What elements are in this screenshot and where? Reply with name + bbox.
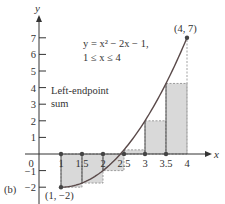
svg-text:2.5: 2.5 (117, 158, 130, 169)
svg-text:3: 3 (142, 158, 147, 169)
x-axis-arrow-icon (205, 151, 212, 157)
svg-text:3.5: 3.5 (159, 158, 172, 169)
function-label-line2: 1 ≤ x ≤ 4 (83, 52, 122, 63)
sum-label-line2: sum (51, 98, 69, 109)
svg-text:1: 1 (31, 132, 36, 143)
y-axis-label: y (34, 2, 40, 14)
svg-text:2: 2 (100, 158, 105, 169)
svg-text:1: 1 (58, 158, 63, 169)
y-axis-arrow-icon (36, 15, 42, 22)
function-label-line1: y = x² − 2x − 1, (83, 38, 149, 49)
panel-label: (b) (4, 184, 17, 196)
svg-text:7: 7 (31, 33, 36, 44)
rectangle (124, 150, 145, 154)
rectangle (145, 121, 166, 154)
svg-text:2: 2 (31, 116, 36, 127)
sum-label-line1: Left-endpoint (51, 85, 109, 96)
svg-text:4: 4 (184, 158, 190, 169)
x-axis-label: x (213, 148, 219, 160)
svg-text:5: 5 (31, 66, 36, 77)
y-tick-labels: −2−11234567 (25, 33, 37, 193)
svg-text:1.5: 1.5 (75, 158, 88, 169)
svg-text:−2: −2 (25, 182, 36, 193)
svg-text:4: 4 (31, 83, 37, 94)
annotation-start-point: (1, −2) (45, 190, 74, 202)
svg-text:3: 3 (31, 99, 36, 110)
svg-text:−1: −1 (25, 166, 36, 177)
riemann-sum-chart: y x y = x² − 2x − 1, 1 ≤ x ≤ 4 Left-endp… (0, 0, 225, 204)
svg-text:6: 6 (31, 49, 36, 60)
rectangle (166, 83, 187, 154)
annotation-end-point: (4, 7) (174, 23, 197, 35)
